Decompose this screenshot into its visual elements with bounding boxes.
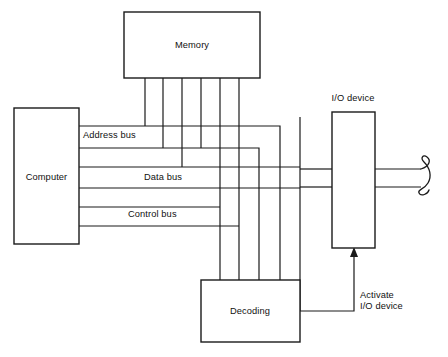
memory-block-label: Memory — [175, 40, 209, 52]
address-bus-rail-upper — [79, 126, 280, 280]
computer-block-label: Computer — [26, 172, 68, 184]
bus-wiring-group — [79, 78, 430, 311]
control-bus-label: Control bus — [128, 209, 177, 221]
data-bus-label: Data bus — [144, 172, 182, 184]
blocks-group — [14, 12, 375, 342]
address-bus-label: Address bus — [83, 130, 136, 142]
cable-continuation-break-icon — [419, 156, 430, 195]
io-device-block[interactable] — [332, 112, 375, 248]
bus-architecture-diagram: Memory Computer I/O device Decoding Addr… — [0, 0, 448, 357]
activate-io-device-label-line1: Activate — [360, 290, 394, 302]
io-device-caption: I/O device — [332, 93, 375, 105]
decoding-block-label: Decoding — [230, 306, 270, 318]
activate-io-device-label-line2: I/O device — [360, 301, 403, 313]
activate-io-device-wire — [300, 254, 354, 311]
